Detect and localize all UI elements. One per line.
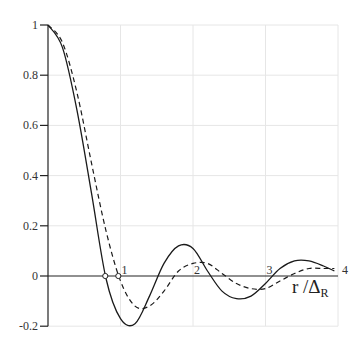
y-tick-label: 1 — [32, 18, 38, 32]
y-tick-label: 0.2 — [23, 219, 38, 233]
x-axis-title: r /ΔR — [292, 276, 329, 300]
y-tick-label: 0.8 — [23, 68, 38, 82]
y-tick-label: 0 — [32, 269, 38, 283]
x-tick-label: 3 — [267, 263, 273, 277]
y-axis-ticks: 10.80.60.40.20-0.2 — [19, 18, 48, 333]
y-tick-label: 0.6 — [23, 118, 38, 132]
zero-crossing-marker — [116, 273, 121, 278]
line-chart: 10.80.60.40.20-0.2 1234 r /ΔR — [0, 0, 362, 349]
zero-crossing-marker — [103, 273, 108, 278]
x-axis-ticks: 1234 — [122, 263, 349, 277]
y-tick-label: -0.2 — [19, 319, 38, 333]
x-tick-label: 4 — [342, 263, 348, 277]
y-tick-label: 0.4 — [23, 169, 38, 183]
series-line-dashed — [48, 25, 334, 309]
x-tick-label: 2 — [194, 263, 200, 277]
x-tick-label: 1 — [122, 263, 128, 277]
